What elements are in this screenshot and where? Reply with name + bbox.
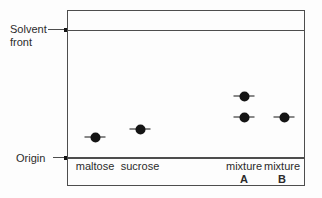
spot-mixture-b xyxy=(274,112,295,123)
solvent-front-label: Solvent front xyxy=(10,23,47,49)
origin-line xyxy=(68,157,304,159)
spot-circle xyxy=(90,132,100,142)
lane-label-mixture-a: mixtureA xyxy=(226,161,262,185)
lane-label-maltose: maltose xyxy=(76,161,115,172)
spot-sucrose xyxy=(130,124,151,135)
lane-label-mixture-b: mixtureB xyxy=(264,161,300,185)
spot-circle xyxy=(239,91,249,101)
lane-sublabel: B xyxy=(264,174,300,185)
origin-label: Origin xyxy=(16,152,45,165)
chromatography-figure: Solvent front Origin maltosesucrosemixtu… xyxy=(0,0,322,198)
lane-name: mixture xyxy=(226,161,262,172)
spot-circle xyxy=(279,112,289,122)
lane-label-sucrose: sucrose xyxy=(121,161,160,172)
spot-mixture-a xyxy=(234,91,255,102)
lane-sublabel: A xyxy=(226,174,262,185)
lane-name: mixture xyxy=(264,161,300,172)
spot-maltose xyxy=(85,132,106,143)
lane-name: sucrose xyxy=(121,161,160,172)
lane-name: maltose xyxy=(76,161,115,172)
spot-circle xyxy=(239,112,249,122)
chromatography-paper: maltosesucrosemixtureAmixtureB xyxy=(67,10,305,186)
solvent-front-line xyxy=(68,30,304,32)
spot-circle xyxy=(135,124,145,134)
spot-mixture-a xyxy=(234,112,255,123)
